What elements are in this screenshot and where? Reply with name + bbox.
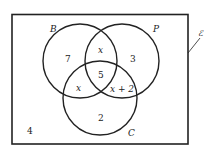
label-p: P (152, 24, 160, 34)
universal-pointer-line (188, 38, 200, 53)
label-c: C (128, 128, 135, 138)
venn-diagram: B P C ℰ 7 x 3 5 x x + 2 2 4 (0, 0, 214, 153)
region-b-only: 7 (65, 54, 71, 64)
region-outside: 4 (27, 126, 33, 136)
region-p-only: 3 (130, 54, 136, 64)
region-p-c: x + 2 (110, 84, 134, 94)
label-b: B (49, 24, 57, 34)
region-c-only: 2 (98, 113, 104, 123)
region-b-p-c: 5 (98, 70, 104, 80)
label-universal: ℰ (198, 29, 204, 38)
region-b-c: x (76, 83, 81, 93)
region-b-p: x (98, 45, 103, 55)
